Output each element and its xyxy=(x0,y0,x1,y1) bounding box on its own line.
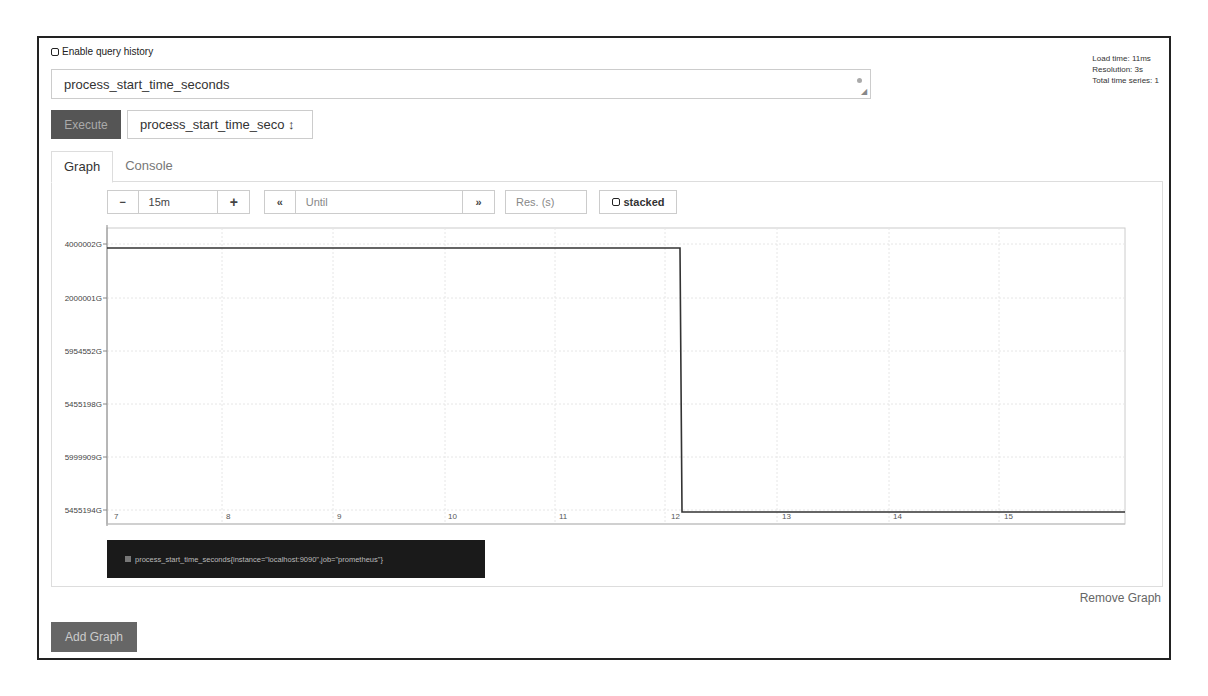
x-gridlines xyxy=(222,228,999,524)
svg-text:5954552G: 5954552G xyxy=(65,347,102,356)
svg-text:7: 7 xyxy=(114,512,119,521)
series-color-swatch xyxy=(125,556,131,562)
checkbox-icon[interactable] xyxy=(51,48,59,56)
y-gridlines xyxy=(107,244,1125,510)
chart-legend[interactable]: process_start_time_seconds{instance="loc… xyxy=(107,540,485,578)
x-axis-labels: 7 8 9 10 11 12 13 14 15 xyxy=(114,512,1013,521)
svg-text:12: 12 xyxy=(671,512,680,521)
y-axis-labels: 4000002G 2000001G 5954552G 5455198G 5999… xyxy=(65,240,102,515)
expression-value: process_start_time_seconds xyxy=(64,77,229,92)
resize-handle-icon[interactable]: ◢ xyxy=(861,87,867,96)
time-series-chart[interactable]: 4000002G 2000001G 5954552G 5455198G 5999… xyxy=(52,182,1164,542)
expression-input[interactable]: process_start_time_seconds ◢ xyxy=(51,69,871,99)
tab-graph[interactable]: Graph xyxy=(51,151,113,183)
svg-text:14: 14 xyxy=(893,512,902,521)
enable-query-history-checkbox[interactable]: Enable query history xyxy=(51,46,153,57)
series-line xyxy=(107,248,1125,512)
metric-select[interactable]: process_start_time_seco ↕ xyxy=(127,110,313,139)
view-tabs: Graph Console xyxy=(51,151,185,183)
svg-text:5455194G: 5455194G xyxy=(65,506,102,515)
total-time-series: Total time series: 1 xyxy=(1092,75,1159,86)
svg-text:4000002G: 4000002G xyxy=(65,240,102,249)
svg-text:5999909G: 5999909G xyxy=(65,453,102,462)
tab-console[interactable]: Console xyxy=(113,151,185,181)
svg-text:15: 15 xyxy=(1004,512,1013,521)
prometheus-graph-page: Enable query history process_start_time_… xyxy=(37,36,1171,660)
svg-text:5455198G: 5455198G xyxy=(65,400,102,409)
query-stats: Load time: 11ms Resolution: 3s Total tim… xyxy=(1092,53,1159,86)
add-graph-button[interactable]: Add Graph xyxy=(51,622,137,652)
y-ticks xyxy=(103,244,107,510)
svg-text:2000001G: 2000001G xyxy=(65,294,102,303)
metrics-explorer-icon[interactable] xyxy=(857,78,862,83)
svg-text:9: 9 xyxy=(337,512,342,521)
load-time: Load time: 11ms xyxy=(1092,53,1159,64)
plot-area xyxy=(107,228,1125,524)
execute-button[interactable]: Execute xyxy=(51,110,121,139)
svg-text:10: 10 xyxy=(448,512,457,521)
legend-entry[interactable]: process_start_time_seconds{instance="loc… xyxy=(135,555,383,564)
remove-graph-link[interactable]: Remove Graph xyxy=(1080,591,1161,605)
graph-panel: − 15m + « Until » Res. (s) stacked xyxy=(51,181,1163,587)
svg-text:11: 11 xyxy=(559,512,568,521)
svg-text:13: 13 xyxy=(782,512,791,521)
resolution: Resolution: 3s xyxy=(1092,64,1159,75)
svg-text:8: 8 xyxy=(226,512,231,521)
query-history-label: Enable query history xyxy=(62,46,153,57)
